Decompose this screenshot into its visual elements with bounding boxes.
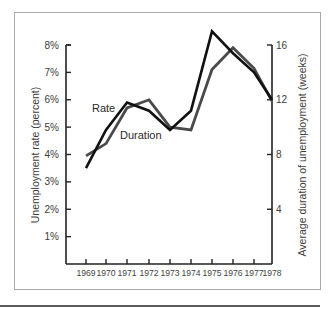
left-tick-label: 2% — [45, 204, 60, 215]
left-tick-label: 7% — [45, 67, 60, 78]
x-tick-label: 1978 — [262, 268, 281, 278]
rate-series-label: Rate — [92, 102, 115, 114]
left-tick-label: 1% — [45, 231, 60, 242]
right-y-axis: 481216 — [267, 40, 288, 265]
x-tick-label: 1971 — [117, 268, 136, 278]
dual-axis-line-chart: 1%2%3%4%5%6%7%8% 481216 1969197019711972… — [0, 0, 336, 311]
x-tick-label: 1973 — [160, 268, 179, 278]
right-tick-label: 4 — [276, 204, 282, 215]
x-tick-label: 1969 — [76, 268, 95, 278]
right-axis-title: Average duration of unemployment (weeks) — [296, 54, 308, 257]
left-tick-label: 5% — [45, 122, 60, 133]
x-tick-label: 1972 — [139, 268, 158, 278]
x-axis: 1969197019711972197319741975197619771978 — [66, 259, 282, 278]
x-tick-label: 1975 — [202, 268, 221, 278]
right-tick-label: 16 — [276, 40, 288, 51]
duration-series-label: Duration — [120, 129, 162, 141]
right-tick-label: 12 — [276, 94, 288, 105]
x-tick-label: 1977 — [244, 268, 263, 278]
left-tick-label: 8% — [45, 40, 60, 51]
x-tick-label: 1974 — [181, 268, 200, 278]
left-tick-label: 3% — [45, 176, 60, 187]
rate-series-line — [86, 31, 272, 168]
left-axis-title: Unemployment rate (percent) — [29, 87, 41, 224]
x-tick-label: 1976 — [223, 268, 242, 278]
right-tick-label: 8 — [276, 149, 282, 160]
left-tick-label: 6% — [45, 94, 60, 105]
x-tick-label: 1970 — [96, 268, 115, 278]
left-y-axis: 1%2%3%4%5%6%7%8% — [45, 40, 71, 265]
left-tick-label: 4% — [45, 149, 60, 160]
